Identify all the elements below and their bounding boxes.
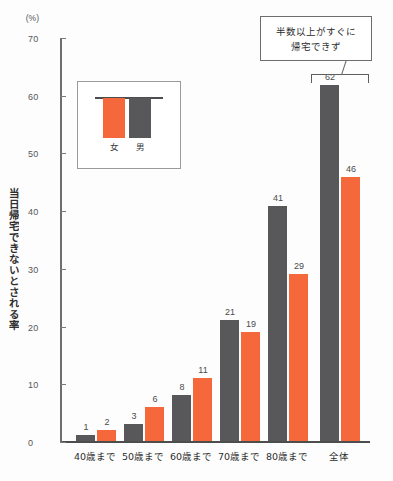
bar-male bbox=[320, 85, 339, 441]
y-tick-label-50: 50 bbox=[28, 149, 54, 159]
bar-value-label: 11 bbox=[198, 365, 207, 375]
y-axis-unit: (%) bbox=[26, 13, 39, 23]
bar-group: 70歳まで1921 bbox=[220, 39, 260, 441]
bar-male bbox=[220, 320, 239, 441]
y-tick-label-20: 20 bbox=[28, 323, 54, 333]
bar-value-label: 29 bbox=[294, 261, 304, 271]
bar-female bbox=[97, 430, 116, 441]
bar-value-label: 19 bbox=[246, 319, 256, 329]
annotation-callout: 半数以上がすぐに 帰宅できず bbox=[260, 16, 372, 61]
y-tick-label-70: 70 bbox=[28, 34, 54, 44]
bar-value-label: 8 bbox=[179, 382, 184, 392]
legend-swatch-male bbox=[129, 98, 151, 138]
bar-value-label: 2 bbox=[104, 417, 109, 427]
bar-male bbox=[76, 435, 95, 441]
legend-inner: 女 男 bbox=[93, 97, 165, 153]
bar-female bbox=[341, 177, 360, 441]
bar-value-label: 3 bbox=[131, 411, 136, 421]
bar-female bbox=[145, 407, 164, 441]
y-axis-title: 当日帰宅できないとされる率 bbox=[3, 188, 19, 331]
bar-female bbox=[289, 274, 308, 441]
bar-male bbox=[172, 395, 191, 441]
bar-value-label: 41 bbox=[273, 193, 283, 203]
bar-value-label: 1 bbox=[83, 422, 88, 432]
y-tick-label-40: 40 bbox=[28, 207, 54, 217]
legend-swatch-female bbox=[103, 98, 125, 138]
bar-male bbox=[124, 424, 143, 441]
bar-female bbox=[241, 332, 260, 441]
bar-group: 80歳まで2941 bbox=[268, 39, 308, 441]
category-label: 全体 bbox=[306, 449, 372, 463]
bar-male bbox=[268, 206, 287, 441]
bar-value-label: 6 bbox=[152, 394, 157, 404]
rotated-chart-canvas: 当日帰宅できないとされる率 0 10 20 30 40 50 60 70 (%)… bbox=[0, 0, 393, 481]
bar-value-label: 46 bbox=[346, 164, 356, 174]
annotation-line-2: 帰宅できず bbox=[291, 39, 341, 54]
annotation-bracket bbox=[311, 74, 369, 83]
y-tick-label-10: 10 bbox=[28, 380, 54, 390]
bar-group: 全体4662 bbox=[320, 39, 360, 441]
legend-label-male: 男 bbox=[129, 140, 151, 152]
y-tick-label-60: 60 bbox=[28, 92, 54, 102]
annotation-line-1: 半数以上がすぐに bbox=[276, 24, 356, 39]
chart-area: 当日帰宅できないとされる率 0 10 20 30 40 50 60 70 (%)… bbox=[0, 0, 393, 481]
bar-value-label: 21 bbox=[225, 307, 235, 317]
y-tick-label-0: 0 bbox=[28, 438, 54, 448]
legend-label-female: 女 bbox=[103, 140, 125, 152]
bar-female bbox=[193, 378, 212, 441]
y-tick-label-30: 30 bbox=[28, 265, 54, 275]
x-axis-line bbox=[60, 441, 370, 443]
y-tick-0 bbox=[60, 442, 66, 443]
legend: 女 男 bbox=[77, 81, 181, 169]
